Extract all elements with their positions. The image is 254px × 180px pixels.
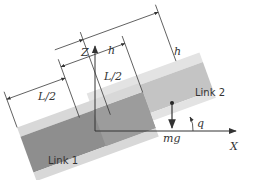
angle-label: q: [197, 117, 204, 130]
dimension-label-half-length-middle: L/2: [103, 70, 122, 83]
two-link-diagram: Z X h h L/2 L/2 Link 1 Link 2 mg q: [0, 0, 254, 180]
dimension-h-right: [83, 12, 158, 39]
dimension-h-left: [55, 40, 83, 50]
dimension-label-half-length-left: L/2: [37, 90, 56, 103]
link-1-label: Link 1: [48, 155, 78, 166]
extension-line: [4, 92, 17, 128]
dimension-half-length-middle: [61, 44, 125, 67]
z-axis-label: Z: [80, 46, 89, 59]
dimension-half-length-left: [7, 78, 65, 99]
angle-arc: [190, 117, 193, 131]
x-axis-label: X: [229, 140, 239, 153]
dimension-label-h-right: h: [174, 45, 181, 58]
dimension-label-h-left: h: [108, 44, 115, 57]
extension-line: [155, 5, 176, 61]
force-label: mg: [163, 132, 180, 145]
link-2-label: Link 2: [195, 87, 225, 98]
